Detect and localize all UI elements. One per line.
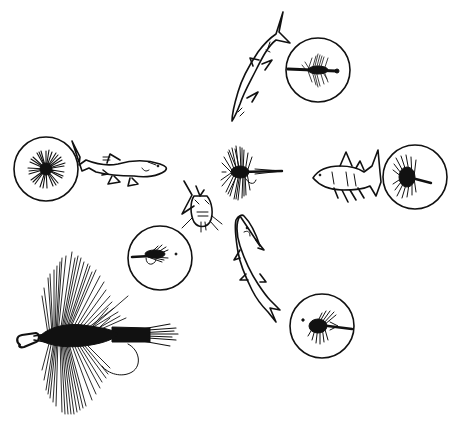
circle-top-right-fly (286, 38, 350, 102)
fishing-fly-illustration (0, 0, 457, 427)
circle-left-fly (14, 137, 78, 201)
circle-right-fly (383, 145, 447, 209)
fish-top-icon (232, 12, 290, 121)
circle-middle-left-fly (128, 226, 192, 290)
fish-center-front-icon (182, 181, 222, 232)
fish-right-icon (313, 150, 381, 202)
large-hackle-fly-icon (17, 252, 178, 414)
illustration-svg (0, 0, 457, 427)
circle-bottom-right-fly (290, 294, 354, 358)
center-fly-icon (221, 146, 282, 200)
fish-lower-icon (234, 215, 280, 322)
fish-left-icon (72, 141, 166, 186)
